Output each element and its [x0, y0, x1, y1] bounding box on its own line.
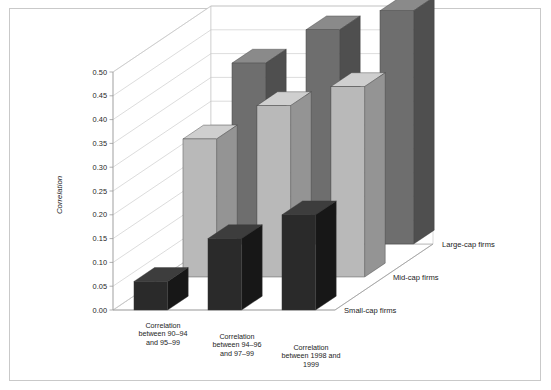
y-axis-tick-label: 0.25 [93, 187, 107, 196]
y-axis-tick-label: 0.00 [93, 306, 107, 315]
y-axis-title: Correlation [55, 176, 64, 214]
bar-front-face [282, 215, 316, 310]
bar-side-face [365, 73, 386, 277]
series-label-mid-cap: Mid-cap firms [393, 273, 439, 282]
y-axis-tick-label: 0.45 [93, 91, 107, 100]
x-axis-category-label: and 97–99 [220, 349, 254, 358]
y-axis-tick-label: 0.50 [93, 68, 107, 77]
y-axis-tick-label: 0.20 [93, 210, 107, 219]
bar-small-cap-group-2 [208, 225, 262, 310]
figure-page: 0.000.050.100.150.200.250.300.350.400.45… [0, 0, 551, 390]
bar-mid-cap-group-3 [331, 73, 385, 277]
y-axis-tick-label: 0.10 [93, 258, 107, 267]
y-axis-tick-label: 0.05 [93, 282, 107, 291]
bar-side-face [414, 0, 435, 244]
series-label-small-cap: Small-cap firms [344, 306, 397, 315]
bar-small-cap-group-3 [282, 201, 336, 310]
correlation-3d-bar-chart: 0.000.050.100.150.200.250.300.350.400.45… [0, 0, 551, 390]
y-axis-tick-label: 0.35 [93, 139, 107, 148]
bar-front-face [208, 239, 242, 310]
y-axis-tick-label: 0.15 [93, 234, 107, 243]
y-axis-tick-label: 0.40 [93, 115, 107, 124]
y-axis-tick-label: 0.30 [93, 163, 107, 172]
plot-area: 0.000.050.100.150.200.250.300.350.400.45… [55, 0, 495, 369]
bar-side-face [242, 225, 263, 310]
bar-front-face [134, 281, 168, 310]
series-label-large-cap: Large-cap firms [442, 240, 495, 249]
x-axis-category-label: and 95–99 [146, 338, 180, 347]
x-axis-category-label: 1999 [303, 360, 319, 369]
bar-large-cap-group-3 [380, 0, 434, 244]
bar-side-face [316, 201, 337, 310]
